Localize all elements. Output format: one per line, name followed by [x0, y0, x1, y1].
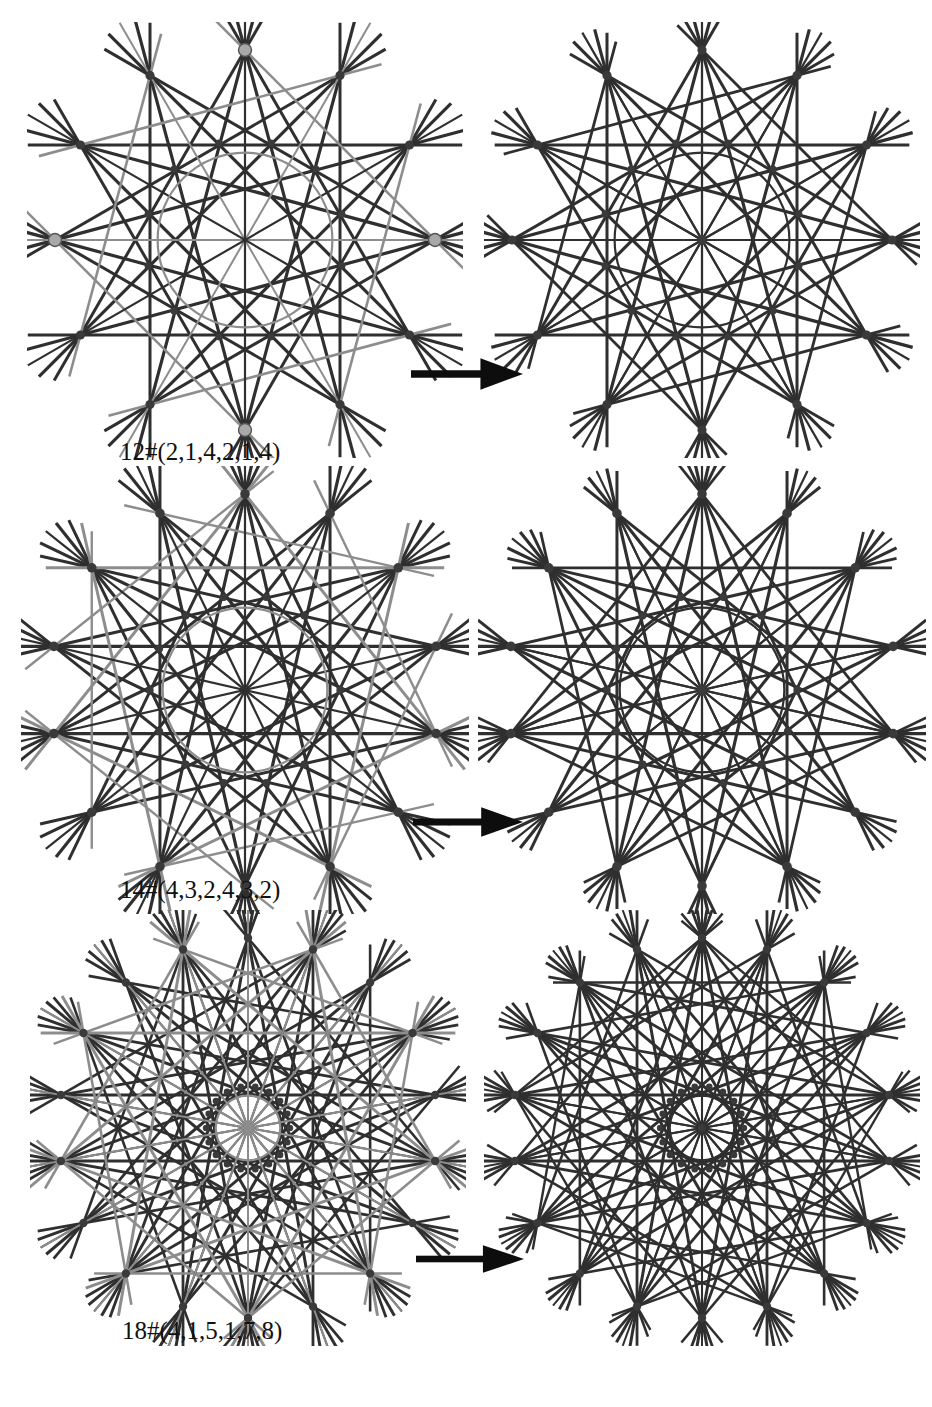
intersection-marker	[613, 728, 620, 735]
line-arrangement	[484, 910, 920, 1346]
intersection-marker	[301, 761, 308, 768]
vertex-marker-dark	[145, 71, 154, 80]
intersection-marker	[724, 333, 731, 340]
vertex-marker-dark	[888, 729, 898, 739]
vertex-marker-dark	[633, 945, 641, 953]
vertex-marker-dark	[49, 642, 59, 652]
figure-caption: 18#(4,1,5,1,7,8)	[122, 1317, 282, 1345]
vertex-marker-dark	[820, 1269, 828, 1277]
intersection-marker	[758, 761, 765, 768]
intersection-marker	[301, 612, 308, 619]
vertex-marker-light	[49, 234, 62, 247]
vertex-marker-dark	[393, 807, 403, 817]
intersection-marker	[628, 166, 635, 173]
vertex-marker-dark	[179, 945, 187, 953]
arrangement-12-unified	[484, 22, 920, 458]
arrangement-line	[478, 724, 897, 821]
vertex-marker-dark	[782, 862, 792, 872]
right-arrow-icon	[411, 357, 523, 391]
vertex-marker-dark	[763, 945, 771, 953]
intersection-marker	[677, 594, 684, 601]
vertex-marker-dark	[431, 729, 441, 739]
arrangement-12-two-color	[27, 22, 463, 458]
vertex-marker-dark	[862, 140, 871, 149]
vertex-marker-dark	[79, 1219, 87, 1227]
intersection-marker	[672, 140, 679, 147]
intersection-marker	[252, 1084, 259, 1091]
intersection-marker	[312, 166, 319, 173]
vertex-marker-dark	[335, 71, 344, 80]
intersection-marker	[327, 728, 334, 735]
vertex-marker-dark	[698, 934, 706, 942]
figure-caption: 12#(2,1,4,2,1,4)	[120, 438, 280, 466]
vertex-marker-dark	[850, 563, 860, 573]
vertex-marker-dark	[155, 862, 165, 872]
vertex-marker-dark	[544, 807, 554, 817]
vertex-marker-dark	[506, 642, 516, 652]
intersection-marker	[336, 686, 343, 693]
intersection-marker	[171, 307, 178, 314]
center-vertex	[697, 685, 707, 695]
intersection-marker	[220, 779, 227, 786]
figure-caption: 14#(4,3,2,4,3,2)	[120, 876, 280, 904]
vertex-marker-dark	[366, 978, 374, 986]
vertex-marker-dark	[533, 140, 542, 149]
intersection-marker	[738, 1139, 745, 1146]
vertex-marker-dark	[76, 330, 85, 339]
vertex-marker-dark	[335, 400, 344, 409]
intersection-marker	[205, 1110, 212, 1117]
intersection-marker	[758, 612, 765, 619]
vertex-marker-dark	[792, 400, 801, 409]
intersection-marker	[266, 1161, 273, 1168]
intersection-marker	[795, 262, 802, 269]
vertex-marker-dark	[698, 1314, 706, 1322]
vertex-marker-dark	[612, 509, 622, 519]
arrangement-18-two-color	[30, 910, 466, 1346]
vertex-marker-dark	[179, 1302, 187, 1310]
vertex-marker-dark	[507, 235, 516, 244]
intersection-marker	[284, 1110, 291, 1117]
arrow-shaft	[413, 818, 483, 825]
vertex-marker-dark	[325, 862, 335, 872]
intersection-marker	[215, 140, 222, 147]
intersection-marker	[603, 686, 610, 693]
vertex-marker-dark	[511, 1091, 519, 1099]
intersection-marker	[182, 612, 189, 619]
vertex-marker-dark	[431, 642, 441, 652]
arrow-shaft	[411, 370, 482, 377]
vertex-marker-dark	[431, 1157, 439, 1165]
vertex-marker-dark	[511, 1157, 519, 1165]
line-arrangement	[478, 466, 926, 914]
intersection-marker	[266, 1088, 273, 1095]
intersection-marker	[667, 1152, 674, 1159]
intersection-marker	[277, 1152, 284, 1159]
vertex-marker-dark	[782, 509, 792, 519]
arrangement-14-unified	[478, 466, 926, 914]
intersection-marker	[252, 1166, 259, 1173]
vertex-marker-dark	[122, 978, 130, 986]
arrow-head	[483, 1245, 524, 1273]
intersection-marker	[284, 1139, 291, 1146]
vertex-marker-dark	[533, 1029, 541, 1037]
intersection-marker	[237, 1166, 244, 1173]
intersection-marker	[613, 645, 620, 652]
intersection-marker	[156, 728, 163, 735]
intersection-marker	[795, 210, 802, 217]
transform-arrow	[413, 806, 523, 842]
vertex-marker-dark	[240, 489, 250, 499]
vertex-marker-dark	[79, 1029, 87, 1037]
vertex-marker-dark	[431, 1091, 439, 1099]
arrangement-line	[507, 724, 926, 821]
intersection-marker	[667, 1098, 674, 1105]
intersection-marker	[287, 1125, 294, 1132]
intersection-marker	[784, 728, 791, 735]
vertex-marker-dark	[325, 509, 335, 519]
intersection-marker	[262, 594, 269, 601]
right-figure	[478, 466, 926, 914]
vertex-marker-dark	[862, 1029, 870, 1037]
left-figure	[30, 910, 466, 1346]
vertex-marker-dark	[887, 235, 896, 244]
vertex-marker-dark	[366, 1269, 374, 1277]
vertex-marker-dark	[885, 1157, 893, 1165]
vertex-marker-dark	[49, 729, 59, 739]
